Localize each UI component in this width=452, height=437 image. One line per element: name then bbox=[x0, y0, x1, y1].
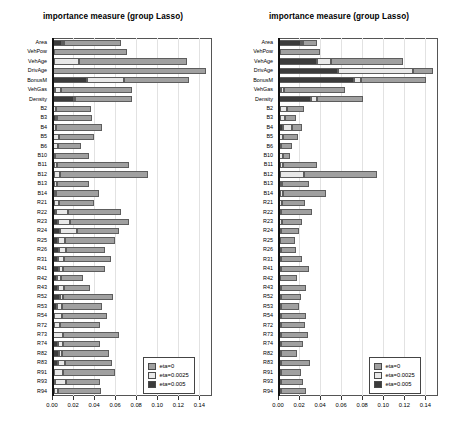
bar-row bbox=[52, 181, 212, 187]
y-axis-tick-label: B2 bbox=[266, 106, 273, 111]
bar-segment bbox=[63, 369, 115, 375]
bar-row bbox=[278, 209, 438, 215]
bar-segment bbox=[282, 219, 302, 225]
y-axis-tick-label: R53 bbox=[263, 304, 273, 309]
bar-row bbox=[278, 313, 438, 319]
y-axis-tick-label: R41 bbox=[263, 266, 273, 271]
bar-row bbox=[52, 124, 212, 130]
y-axis-tick-label: R54 bbox=[37, 313, 47, 318]
figure-container: importance measure (group Lasso) AreaVeh… bbox=[0, 0, 452, 437]
y-axis-tick-label: VehGas bbox=[254, 87, 273, 92]
legend-swatch bbox=[374, 363, 382, 371]
bar-row bbox=[278, 58, 438, 64]
y-axis-tick-label: R41 bbox=[37, 266, 47, 271]
bar-row bbox=[278, 124, 438, 130]
bar-segment bbox=[283, 134, 298, 140]
bar-row bbox=[52, 68, 212, 74]
bar-segment bbox=[281, 266, 309, 272]
bar-segment bbox=[354, 77, 361, 83]
bar-segment bbox=[56, 124, 102, 130]
y-axis-tick-label: DrivAge bbox=[28, 68, 47, 73]
bar-segment bbox=[281, 303, 300, 309]
bar-segment bbox=[281, 256, 302, 262]
bar-segment bbox=[87, 77, 124, 83]
bar-segment bbox=[413, 68, 433, 74]
bar-segment bbox=[285, 115, 296, 121]
bar-row bbox=[278, 181, 438, 187]
y-axis-tick-label: R74 bbox=[37, 341, 47, 346]
bar-segment bbox=[283, 153, 290, 159]
y-axis-tick-label: R23 bbox=[37, 219, 47, 224]
x-axis-tick-label: 0.06 bbox=[330, 402, 352, 408]
y-axis-tick-label: B14 bbox=[37, 191, 47, 196]
x-axis-tick-label: 0.12 bbox=[167, 402, 189, 408]
bar-row bbox=[52, 322, 212, 328]
y-axis-tick-label: R94 bbox=[37, 389, 47, 394]
plot-area-left bbox=[52, 38, 212, 396]
bar-segment bbox=[58, 219, 69, 225]
bar-row bbox=[52, 228, 212, 234]
bar-segment bbox=[278, 40, 301, 46]
bar-segment bbox=[280, 49, 320, 55]
x-axis-tick bbox=[383, 396, 384, 400]
y-axis-tick-label: B12 bbox=[263, 172, 273, 177]
bar-segment bbox=[64, 285, 90, 291]
bar-segment bbox=[59, 200, 94, 206]
x-axis-tick-label: 0.02 bbox=[288, 402, 310, 408]
bar-segment bbox=[64, 256, 111, 262]
bar-segment bbox=[281, 285, 306, 291]
y-axis-tick-label: Density bbox=[255, 97, 273, 102]
bar-segment bbox=[282, 181, 308, 187]
y-axis-tick-label: B10 bbox=[37, 153, 47, 158]
bar-segment bbox=[283, 124, 292, 130]
y-axis-tick-label: R83 bbox=[37, 360, 47, 365]
y-axis-tick-label: R43 bbox=[263, 285, 273, 290]
y-axis-tick-label: BonusM bbox=[27, 78, 47, 83]
x-axis-tick-label: 0.00 bbox=[41, 402, 63, 408]
x-axis-tick-label: 0.10 bbox=[372, 402, 394, 408]
bar-row bbox=[278, 68, 438, 74]
y-axis-tick-label: B5 bbox=[40, 134, 47, 139]
y-axis-tick-label: R82 bbox=[37, 351, 47, 356]
bar-segment bbox=[282, 200, 305, 206]
chart-panel-right: importance measure (group Lasso) AreaVeh… bbox=[226, 0, 452, 437]
bar-row bbox=[278, 294, 438, 300]
bar-segment bbox=[304, 171, 377, 177]
y-axis-tick-label: R74 bbox=[263, 341, 273, 346]
bar-segment bbox=[283, 190, 326, 196]
x-axis-tick bbox=[178, 396, 179, 400]
y-axis-tick-label: R93 bbox=[263, 379, 273, 384]
bar-segment bbox=[281, 341, 303, 347]
bar-segment bbox=[278, 58, 317, 64]
bar-segment bbox=[53, 68, 206, 74]
bar-row bbox=[278, 322, 438, 328]
bar-segment bbox=[58, 388, 101, 394]
bar-segment bbox=[281, 143, 292, 149]
bar-row bbox=[52, 153, 212, 159]
y-axis-tick-label: R73 bbox=[37, 332, 47, 337]
bar-segment bbox=[281, 360, 310, 366]
y-axis-tick-label: Density bbox=[29, 97, 47, 102]
bar-segment bbox=[281, 350, 297, 356]
bar-row bbox=[52, 209, 212, 215]
bar-row bbox=[278, 303, 438, 309]
bar-segment bbox=[57, 162, 129, 168]
y-axis-tick-label: R42 bbox=[263, 276, 273, 281]
bar-row bbox=[52, 303, 212, 309]
y-axis-tick-label: R72 bbox=[263, 323, 273, 328]
y-axis-labels-right: AreaVehPowVehAgeDrivAgeBonusMVehGasDensi… bbox=[226, 38, 276, 396]
y-axis-tick-label: VehAge bbox=[28, 59, 47, 64]
x-axis-tick-label: 0.04 bbox=[83, 402, 105, 408]
y-axis-tick-label: R26 bbox=[37, 247, 47, 252]
bar-row bbox=[52, 106, 212, 112]
bar-segment bbox=[292, 124, 302, 130]
bar-row bbox=[278, 332, 438, 338]
bar-row bbox=[52, 275, 212, 281]
bar-row bbox=[52, 171, 212, 177]
bar-row bbox=[52, 341, 212, 347]
bar-segment bbox=[62, 313, 107, 319]
y-axis-tick-label: B11 bbox=[264, 162, 273, 167]
bar-segment bbox=[79, 58, 187, 64]
y-axis-tick-label: B3 bbox=[266, 115, 273, 120]
bar-row bbox=[52, 266, 212, 272]
